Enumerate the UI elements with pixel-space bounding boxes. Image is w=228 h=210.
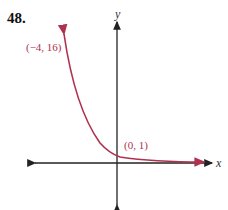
point-label-neg4-16: (−4, 16) (26, 41, 62, 54)
point-label-0-1: (0, 1) (124, 139, 148, 152)
y-axis-label: y (114, 7, 121, 21)
graph: y x (−4, 16) (0, 1) (0, 0, 228, 210)
x-axis-label: x (215, 156, 222, 170)
